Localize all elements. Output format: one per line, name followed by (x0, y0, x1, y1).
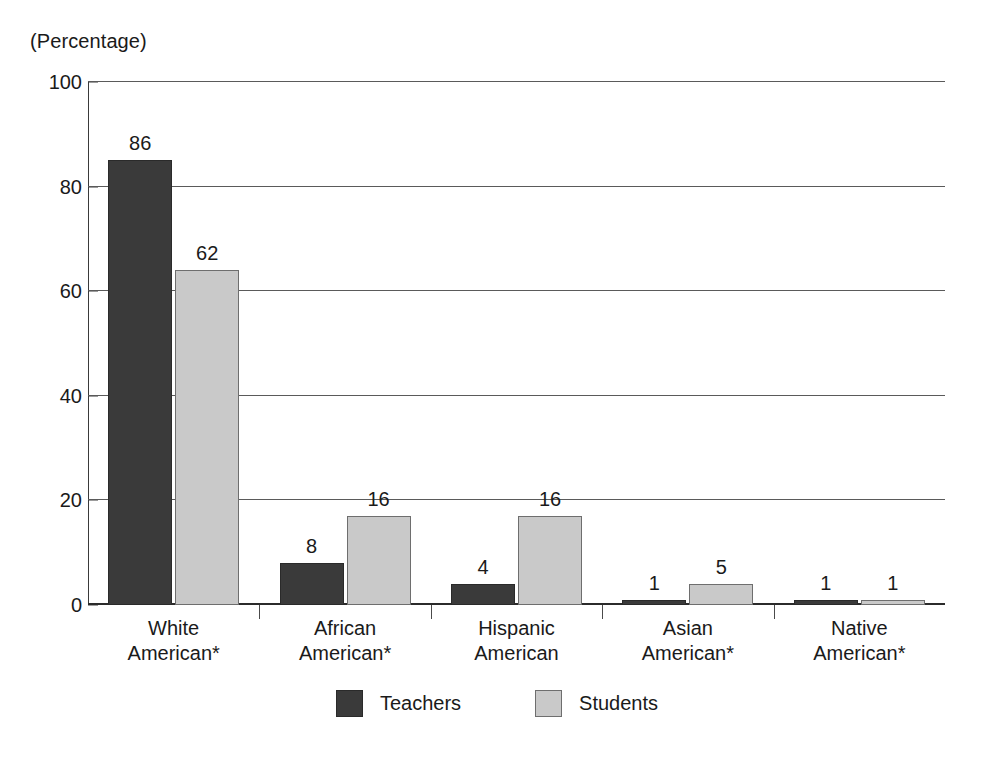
bar-value-label: 62 (196, 242, 218, 265)
bar-teachers-0: 86 (108, 160, 172, 605)
bar-value-label: 1 (887, 572, 898, 595)
bar-value-label: 16 (367, 488, 389, 511)
group-separator-tick (259, 605, 260, 619)
x-category-label-line: Native (813, 616, 905, 641)
y-tick-label-40: 40 (36, 384, 82, 407)
bar-teachers-2: 4 (451, 584, 515, 605)
x-category-label-line: American* (299, 641, 391, 666)
bar-students-3: 5 (689, 584, 753, 605)
x-category-label-line: White (128, 616, 220, 641)
bar-teachers-4: 1 (794, 600, 858, 605)
y-tick-label-20: 20 (36, 489, 82, 512)
bar-teachers-3: 1 (622, 600, 686, 605)
x-category-label-0: WhiteAmerican* (128, 616, 220, 666)
bars-layer: 86841162161651 (88, 82, 945, 605)
dark-swatch (336, 690, 363, 717)
x-category-label-line: African (299, 616, 391, 641)
bar-value-label: 1 (649, 572, 660, 595)
x-category-label-4: NativeAmerican* (813, 616, 905, 666)
bar-value-label: 5 (716, 556, 727, 579)
legend-item-teachers: Teachers (336, 690, 461, 717)
y-tick-label-100: 100 (36, 71, 82, 94)
bar-chart: (Percentage) 020406080100 86841162161651… (0, 0, 994, 762)
x-category-label-1: AfricanAmerican* (299, 616, 391, 666)
x-category-label-2: HispanicAmerican (474, 616, 558, 666)
x-category-label-line: Asian (642, 616, 734, 641)
group-separator-tick (774, 605, 775, 619)
x-category-label-line: American (474, 641, 558, 666)
y-tick-label-0: 0 (36, 594, 82, 617)
bar-students-1: 16 (347, 516, 411, 605)
bar-students-0: 62 (175, 270, 239, 605)
x-category-label-line: American* (128, 641, 220, 666)
bar-value-label: 8 (306, 535, 317, 558)
x-category-label-line: American* (642, 641, 734, 666)
legend-item-students: Students (535, 690, 658, 717)
bar-value-label: 1 (820, 572, 831, 595)
bar-teachers-1: 8 (280, 563, 344, 605)
x-category-label-line: Hispanic (474, 616, 558, 641)
bar-students-2: 16 (518, 516, 582, 605)
bar-students-4: 1 (861, 600, 925, 605)
legend-label: Students (579, 692, 658, 715)
y-axis-unit-caption: (Percentage) (30, 30, 147, 53)
y-tick-label-80: 80 (36, 175, 82, 198)
bar-value-label: 86 (129, 132, 151, 155)
group-separator-tick (602, 605, 603, 619)
bar-value-label: 4 (477, 556, 488, 579)
legend-label: Teachers (380, 692, 461, 715)
x-category-label-3: AsianAmerican* (642, 616, 734, 666)
y-axis-ticks: 020406080100 (22, 82, 82, 605)
x-category-label-line: American* (813, 641, 905, 666)
bar-value-label: 16 (539, 488, 561, 511)
chart-legend: TeachersStudents (0, 690, 994, 717)
group-separator-tick (431, 605, 432, 619)
light-swatch (535, 690, 562, 717)
y-tick-label-60: 60 (36, 280, 82, 303)
